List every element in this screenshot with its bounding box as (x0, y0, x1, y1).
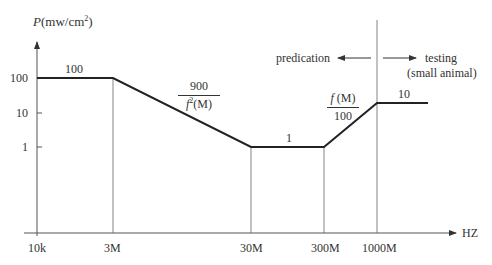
ytick-10: 10 (16, 107, 28, 119)
xtick-3M: 3M (104, 242, 121, 254)
segment-label-10: 10 (398, 88, 410, 100)
y-axis-title: P(mw/cm2) (33, 16, 93, 28)
small-animal-label: (small animal) (407, 67, 477, 79)
segment-label-900-over-f2: 900 f2(M) (178, 79, 220, 112)
ytick-100: 100 (10, 72, 28, 84)
xtick-30M: 30M (240, 242, 263, 254)
xtick-1000M: 1000M (362, 242, 397, 254)
xtick-10k: 10k (28, 242, 46, 254)
x-axis-title: HZ (462, 227, 478, 239)
predication-label: predication (276, 52, 330, 64)
segment-label-100: 100 (65, 63, 83, 75)
limit-curve (37, 78, 428, 147)
xtick-300M: 300M (311, 242, 340, 254)
testing-label: testing (425, 52, 457, 64)
segment-label-f-over-100: f (M) 100 (327, 91, 359, 124)
chart-canvas (0, 0, 492, 265)
ytick-1: 1 (22, 141, 28, 153)
segment-label-1: 1 (286, 132, 292, 144)
